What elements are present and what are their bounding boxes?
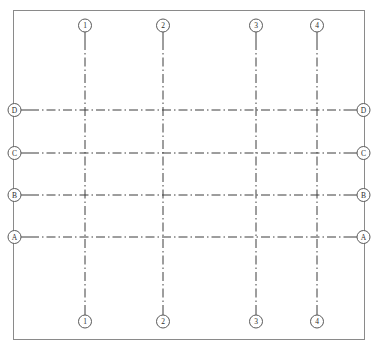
column-bubble-top-1[interactable]: 1 (79, 19, 92, 32)
column-bubble-top-4[interactable]: 4 (311, 19, 324, 32)
bubble-label: C (361, 149, 366, 158)
row-bubble-left-C[interactable]: C (8, 147, 21, 160)
bubble-label: C (12, 149, 17, 158)
bubble-label: A (361, 233, 367, 242)
bubble-label: D (12, 106, 18, 115)
column-bubble-bottom-1[interactable]: 1 (79, 315, 92, 328)
row-axis-group (21, 110, 357, 237)
row-bubble-left-D[interactable]: D (8, 104, 21, 117)
row-bubble-right-C[interactable]: C (357, 147, 370, 160)
bubble-label: 2 (161, 317, 165, 326)
column-bubble-top-3[interactable]: 3 (250, 19, 263, 32)
row-bubble-right-A[interactable]: A (357, 231, 370, 244)
bubble-label: 1 (83, 21, 87, 30)
bubble-label: B (361, 191, 366, 200)
column-bubble-bottom-3[interactable]: 3 (250, 315, 263, 328)
row-bubble-left-B[interactable]: B (8, 189, 21, 202)
bubble-label: B (12, 191, 17, 200)
grid-canvas: 11223344DDCCBBAA (0, 0, 377, 352)
bubble-label: A (12, 233, 18, 242)
bubble-label: 2 (161, 21, 165, 30)
row-bubble-left-A[interactable]: A (8, 231, 21, 244)
bubble-label: 3 (254, 317, 258, 326)
row-bubble-right-D[interactable]: D (357, 104, 370, 117)
column-axis-group (85, 32, 317, 315)
bubble-label: 3 (254, 21, 258, 30)
bubble-label: 4 (315, 21, 319, 30)
bubble-label: 1 (83, 317, 87, 326)
structural-grid-drawing: 11223344DDCCBBAA (0, 0, 377, 352)
bubble-label: 4 (315, 317, 319, 326)
column-bubble-bottom-2[interactable]: 2 (157, 315, 170, 328)
column-bubble-top-2[interactable]: 2 (157, 19, 170, 32)
row-bubble-right-B[interactable]: B (357, 189, 370, 202)
bubble-group: 11223344DDCCBBAA (8, 19, 370, 328)
column-bubble-bottom-4[interactable]: 4 (311, 315, 324, 328)
bubble-label: D (361, 106, 367, 115)
